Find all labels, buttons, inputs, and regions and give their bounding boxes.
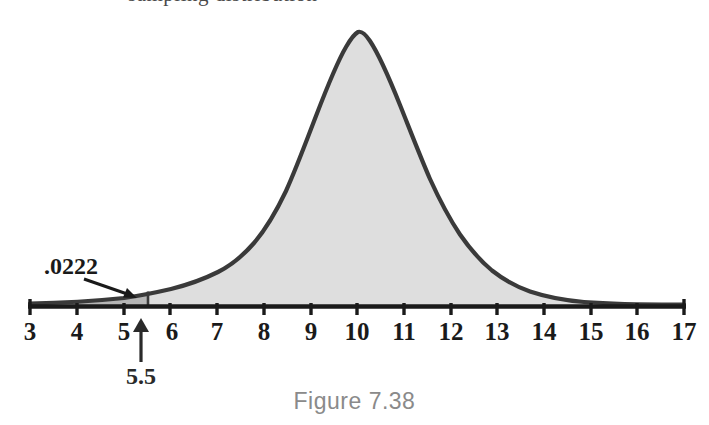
shaded-area-probability-label: .0222 [44,253,98,279]
tick-label-16: 16 [625,318,650,345]
boundary-value-label: 5.5 [126,363,156,388]
tick-label-13: 13 [485,318,510,345]
tick-label-5: 5 [118,318,131,345]
figure-container: sampling distribution [0,0,709,425]
tick-label-11: 11 [392,318,416,345]
tick-label-17: 17 [672,318,697,345]
tick-label-15: 15 [579,318,604,345]
tick-label-7: 7 [211,318,224,345]
figure-caption: Figure 7.38 [0,388,709,415]
tick-label-6: 6 [166,318,179,345]
tick-label-9: 9 [305,318,318,345]
annotation-arrowhead-icon [123,288,137,298]
x-axis-tick-labels: 3 4 5 6 7 8 9 10 11 12 13 14 15 16 17 [24,318,697,345]
distribution-area-fill [30,32,684,306]
tick-label-10: 10 [345,318,370,345]
tick-label-14: 14 [532,318,558,345]
tick-label-3: 3 [24,318,37,345]
up-arrow-icon [133,318,149,362]
tick-label-8: 8 [258,318,271,345]
normal-distribution-plot: 3 4 5 6 7 8 9 10 11 12 13 14 15 16 17 .0… [0,0,709,388]
tick-label-4: 4 [71,318,84,345]
tick-label-12: 12 [439,318,464,345]
